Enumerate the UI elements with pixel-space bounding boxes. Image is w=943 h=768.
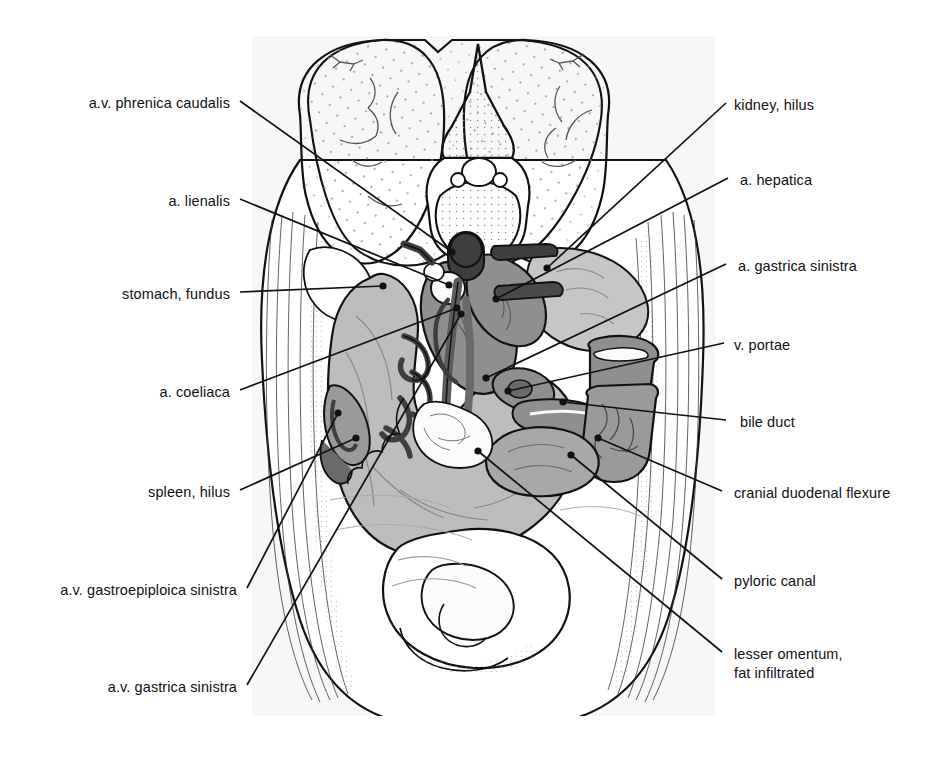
label-a-lienalis[interactable]: a. lienalis <box>168 192 230 211</box>
label-stomach-fundus[interactable]: stomach, fundus <box>122 285 230 304</box>
vertebral-foramen-right <box>493 173 507 187</box>
duodenum-mucosa-upper <box>594 348 648 361</box>
label-a-coeliaca[interactable]: a. coeliaca <box>160 383 230 402</box>
coeliac-artery <box>466 300 470 410</box>
label-pyloric-canal[interactable]: pyloric canal <box>734 572 816 591</box>
label-v-portae[interactable]: v. portae <box>734 336 790 355</box>
hepatic-artery <box>495 282 563 300</box>
vertebral-foramen-left <box>451 173 465 187</box>
label-lesser-omentum-line2: fat infiltrated <box>734 664 843 683</box>
label-a-v-phrenica-caudalis[interactable]: a.v. phrenica caudalis <box>89 94 230 113</box>
anatomy-plate: a.v. phrenica caudalisa. lienalisstomach… <box>0 0 943 768</box>
label-cranial-duodenal-flexure[interactable]: cranial duodenal flexure <box>734 484 890 503</box>
label-spleen-hilus[interactable]: spleen, hilus <box>148 483 230 502</box>
label-bile-duct[interactable]: bile duct <box>740 413 795 432</box>
label-a-gastrica-sinistra[interactable]: a. gastrica sinistra <box>738 257 857 276</box>
label-lesser-omentum[interactable]: lesser omentum,fat infiltrated <box>734 645 843 683</box>
label-a-hepatica[interactable]: a. hepatica <box>740 171 812 190</box>
label-a-v-gastrica-sinistra[interactable]: a.v. gastrica sinistra <box>108 678 237 697</box>
spinal-cord <box>462 158 496 186</box>
label-kidney-hilus[interactable]: kidney, hilus <box>734 96 814 115</box>
pyloric-canal <box>486 427 599 496</box>
label-a-v-gastroepiploica-sin[interactable]: a.v. gastroepiploica sinistra <box>60 581 237 600</box>
